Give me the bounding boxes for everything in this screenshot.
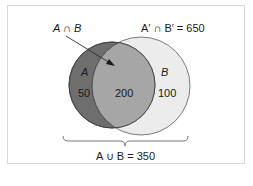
intersection-value: 200 — [115, 87, 133, 99]
venn-diagram: A ∩ B A′ ∩ B′ = 650 A B 50 200 100 A ∪ B… — [0, 0, 253, 186]
union-label: A ∪ B = 350 — [96, 150, 155, 162]
a-only-value: 50 — [78, 87, 90, 99]
set-b-label: B — [161, 66, 168, 78]
set-a-label: A — [80, 66, 88, 78]
complement-intersection-label: A′ ∩ B′ = 650 — [141, 22, 205, 34]
union-brace — [63, 136, 188, 146]
intersection-label: A ∩ B — [52, 22, 81, 34]
b-only-value: 100 — [158, 87, 176, 99]
